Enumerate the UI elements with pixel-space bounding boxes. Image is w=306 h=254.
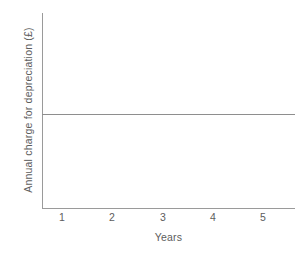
x-tick-label-1: 1 [50,210,74,224]
x-axis-title: Years [42,231,295,243]
x-tick-label-2: 2 [100,210,124,224]
x-tick-label-5: 5 [251,210,275,224]
y-axis-line [42,13,43,209]
x-tick-label-4: 4 [201,210,225,224]
y-axis-title: Annual charge for depreciation (£) [22,27,34,193]
x-tick-label-3: 3 [151,210,175,224]
depreciation-line-chart: 1 2 3 4 5 Years Annual charge for deprec… [0,0,306,254]
x-axis-line [42,208,295,209]
series-line-annual-depreciation-charge [42,114,295,115]
